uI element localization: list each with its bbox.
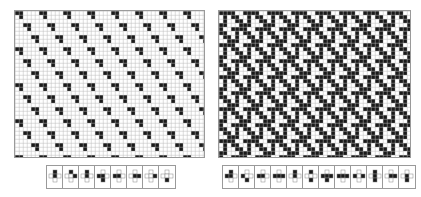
tile-shape-icon	[48, 169, 62, 183]
legend-tile-plus-left-bottom	[95, 166, 111, 188]
tile-shape-icon	[336, 169, 350, 183]
legend-tile-plus-top-vertical	[287, 166, 303, 188]
left-tiling-panel	[14, 10, 205, 158]
tile-shape-icon	[112, 169, 126, 183]
legend-tile-plus-right-center	[383, 166, 399, 188]
tile-shape-icon	[80, 169, 94, 183]
tile-shape-icon	[96, 169, 110, 183]
tile-shape-icon	[160, 169, 174, 183]
tile-shape-icon	[320, 169, 334, 183]
legend-tile-plus-bottom-center	[399, 166, 415, 188]
left-tile-legend	[46, 165, 176, 189]
legend-tile-plus-top-bottom-diag	[303, 166, 319, 188]
tile-shape-icon	[144, 169, 158, 183]
right-tile-legend	[222, 165, 416, 189]
legend-tile-plus-left-right-center	[351, 166, 367, 188]
tile-shape-icon	[256, 169, 270, 183]
legend-tile-plus-left-right	[271, 166, 287, 188]
tile-shape-icon	[128, 169, 142, 183]
legend-tile-plus-left-center	[111, 166, 127, 188]
tile-shape-icon	[352, 169, 366, 183]
left-tiling-grid	[15, 11, 204, 157]
right-tiling-panel	[218, 10, 411, 158]
legend-tile-plus-left-top	[223, 166, 239, 188]
legend-tile-plus-bottom	[159, 166, 175, 188]
legend-tile-plus-center-right	[127, 166, 143, 188]
tile-shape-icon	[400, 169, 414, 183]
legend-tile-plus-top-vertical	[47, 166, 63, 188]
legend-tile-plus-horizontal	[335, 166, 351, 188]
tile-shape-icon	[384, 169, 398, 183]
tile-shape-icon	[272, 169, 286, 183]
legend-tile-plus-horizontal-bottom	[319, 166, 335, 188]
tile-shape-icon	[368, 169, 382, 183]
tile-shape-icon	[224, 169, 238, 183]
legend-tile-plus-vertical-center	[367, 166, 383, 188]
tile-shape-icon	[304, 169, 318, 183]
legend-tile-plus-top-center	[79, 166, 95, 188]
tile-shape-icon	[64, 169, 78, 183]
legend-tile-plus-left-bottom-diag	[239, 166, 255, 188]
tile-shape-icon	[288, 169, 302, 183]
legend-tile-plus-right	[143, 166, 159, 188]
legend-tile-plus-left-center	[255, 166, 271, 188]
legend-tile-plus-top-right	[63, 166, 79, 188]
right-tiling-grid	[219, 11, 410, 157]
tile-shape-icon	[240, 169, 254, 183]
